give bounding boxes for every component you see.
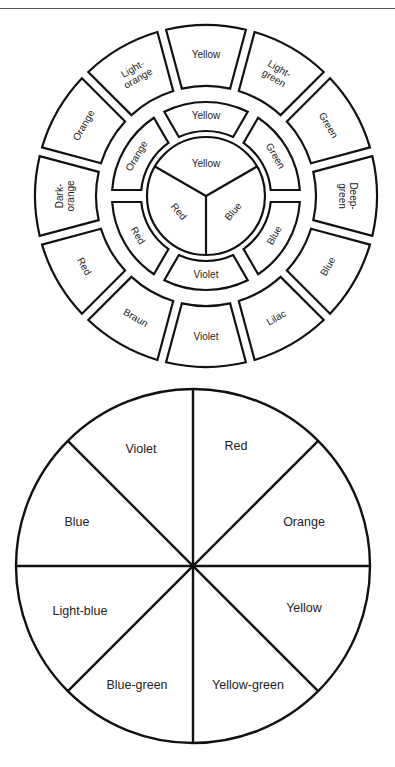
outer-segment-label: Dark-orange [53, 180, 75, 212]
twelve-part-color-wheel: YellowLight-greenGreenDeep-greenBlueLila… [35, 25, 377, 367]
outer-segment-label: Yellow [192, 49, 221, 60]
middle-ring-segment: Yellow [164, 102, 247, 137]
color-wheels-diagram: YellowLight-greenGreenDeep-greenBlueLila… [0, 0, 395, 767]
pie-segment-label: Violet [125, 442, 157, 456]
outer-ring-segment: Violet [166, 303, 246, 367]
outer-ring-segment: Yellow [166, 25, 246, 89]
middle-ring-segment: Violet [164, 255, 247, 290]
middle-segment-label: Violet [194, 269, 219, 280]
pie-segment-label: Light-blue [53, 604, 108, 618]
pie-segment-label: Blue [64, 515, 89, 529]
outer-segment-label: Violet [194, 331, 219, 342]
outer-segment-label: Deep-green [337, 182, 359, 209]
center-segment-label: Yellow [192, 158, 221, 169]
pie-segment-label: Yellow [286, 601, 323, 615]
pie-segment-label: Yellow-green [212, 678, 284, 692]
outer-ring-segment: Deep-green [313, 156, 377, 236]
pie-segment-label: Red [225, 439, 248, 453]
middle-segment-label: Yellow [192, 110, 221, 121]
pie-segment-label: Orange [283, 515, 325, 529]
eight-part-color-pie: RedOrangeYellowYellow-greenBlue-greenLig… [16, 389, 370, 743]
pie-segment-label: Blue-green [106, 678, 167, 692]
outer-ring-segment: Dark-orange [35, 156, 99, 236]
center-primary-circle: YellowBlueRed [147, 137, 265, 255]
